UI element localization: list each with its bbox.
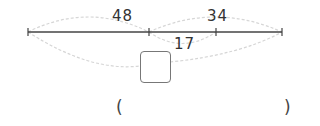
answer-blank[interactable]	[128, 98, 278, 118]
open-parenthesis: (	[116, 99, 123, 116]
close-parenthesis: )	[284, 99, 291, 116]
label-48: 48	[112, 9, 133, 24]
answer-box[interactable]	[140, 51, 171, 83]
label-34: 34	[207, 9, 228, 24]
label-17: 17	[174, 37, 195, 52]
arc-total-bottom-left	[28, 32, 140, 67]
